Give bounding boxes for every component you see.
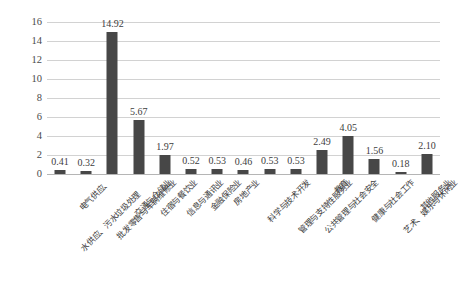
bar-value-label: 2.49	[313, 137, 331, 147]
bar-value-label: 0.53	[261, 156, 279, 166]
bar-slot[interactable]: 14.92	[99, 22, 125, 174]
bar-value-label: 0.32	[78, 158, 96, 168]
bars-layer: 0.410.3214.925.671.970.520.530.460.530.5…	[47, 22, 440, 174]
bar-slot[interactable]: 0.46	[230, 22, 256, 174]
bar-value-label: 4.05	[340, 123, 358, 133]
bar-value-label: 5.67	[130, 107, 148, 117]
y-tick-label: 14	[32, 36, 43, 47]
bar-slot[interactable]: 0.52	[178, 22, 204, 174]
bar-value-label: 1.97	[156, 142, 174, 152]
bar[interactable]	[186, 169, 197, 174]
bar-value-label: 2.10	[418, 141, 436, 151]
bar-slot[interactable]: 0.41	[47, 22, 73, 174]
bar-slot[interactable]: 5.67	[126, 22, 152, 174]
plot-area: 0246810121416 0.410.3214.925.671.970.520…	[47, 22, 440, 174]
bar-value-label: 0.52	[182, 156, 200, 166]
bar[interactable]	[238, 170, 249, 174]
bar-value-label: 0.53	[287, 156, 305, 166]
bar-slot[interactable]: 0.18	[388, 22, 414, 174]
bar-slot[interactable]: 4.05	[335, 22, 361, 174]
bar[interactable]	[369, 159, 380, 174]
bar-value-label: 0.18	[392, 159, 410, 169]
y-tick-label: 2	[37, 150, 42, 161]
x-axis-category-labels: 电气供应、水供应、污水垃圾处理批发零售与车辆维修业交通与仓储业住宿与餐饮业信息与…	[47, 176, 440, 302]
bar-slot[interactable]: 0.53	[283, 22, 309, 174]
bar[interactable]	[343, 136, 354, 174]
bar[interactable]	[421, 154, 432, 174]
bar[interactable]	[317, 150, 328, 174]
y-tick-label: 10	[32, 74, 43, 85]
y-tick-label: 6	[37, 112, 42, 123]
bar[interactable]	[81, 171, 92, 174]
bar[interactable]	[133, 120, 144, 174]
bar[interactable]	[159, 155, 170, 174]
bar-value-label: 14.92	[101, 19, 124, 29]
y-tick-label: 0	[37, 169, 42, 180]
y-tick-label: 8	[37, 93, 42, 104]
bar[interactable]	[107, 32, 118, 174]
bar-value-label: 0.41	[51, 157, 69, 167]
bar-value-label: 0.46	[235, 157, 253, 167]
bar-slot[interactable]: 2.10	[414, 22, 440, 174]
y-tick-label: 12	[32, 55, 43, 66]
x-axis-label: 科学与技术开发	[266, 178, 312, 224]
bar-value-label: 0.53	[209, 156, 227, 166]
bar-slot[interactable]: 0.53	[204, 22, 230, 174]
gridline-0	[47, 174, 440, 175]
bar[interactable]	[290, 169, 301, 174]
bar[interactable]	[264, 169, 275, 174]
y-tick-label: 4	[37, 131, 42, 142]
bar-value-label: 1.56	[366, 146, 384, 156]
bar-slot[interactable]: 0.53	[257, 22, 283, 174]
bar-slot[interactable]: 2.49	[309, 22, 335, 174]
bar-slot[interactable]: 1.97	[152, 22, 178, 174]
bar[interactable]	[395, 172, 406, 174]
x-axis-label: 电气供应、	[78, 178, 112, 212]
x-axis-label: 教育	[333, 178, 350, 195]
bar[interactable]	[212, 169, 223, 174]
bar-slot[interactable]: 0.32	[73, 22, 99, 174]
y-tick-label: 16	[32, 17, 43, 28]
bar[interactable]	[55, 170, 66, 174]
bar-slot[interactable]: 1.56	[361, 22, 387, 174]
